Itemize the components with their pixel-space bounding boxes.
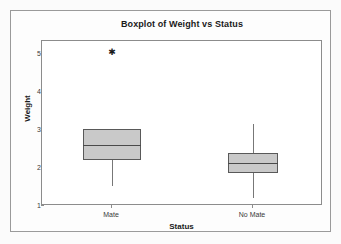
y-axis-tick-label: 3 — [27, 126, 41, 133]
x-axis-tick-mark — [252, 205, 253, 208]
whisker-lower — [112, 160, 113, 186]
y-axis-ticks: 12345 — [24, 40, 41, 205]
outlier-marker: ✱ — [108, 48, 116, 57]
y-axis-tick-label: 1 — [27, 202, 41, 209]
median-line — [83, 145, 141, 146]
x-axis-tick-label: No Mate — [239, 211, 265, 218]
whisker-upper — [253, 124, 254, 152]
chart-title: Boxplot of Weight vs Status — [41, 19, 323, 29]
figure: Boxplot of Weight vs Status Weight 12345… — [0, 0, 341, 244]
x-axis-title: Status — [41, 222, 322, 231]
x-axis-tick-mark — [111, 205, 112, 208]
y-axis-tick-label: 2 — [27, 164, 41, 171]
y-axis-tick-label: 4 — [27, 88, 41, 95]
median-line — [228, 163, 278, 164]
plot-area: ✱ — [42, 41, 321, 204]
whisker-lower — [253, 173, 254, 198]
x-axis-tick-label: Mate — [103, 211, 119, 218]
y-axis-tick-label: 5 — [27, 50, 41, 57]
plot-frame: ✱ — [41, 40, 322, 205]
x-axis-ticks: MateNo Mate — [41, 205, 322, 223]
